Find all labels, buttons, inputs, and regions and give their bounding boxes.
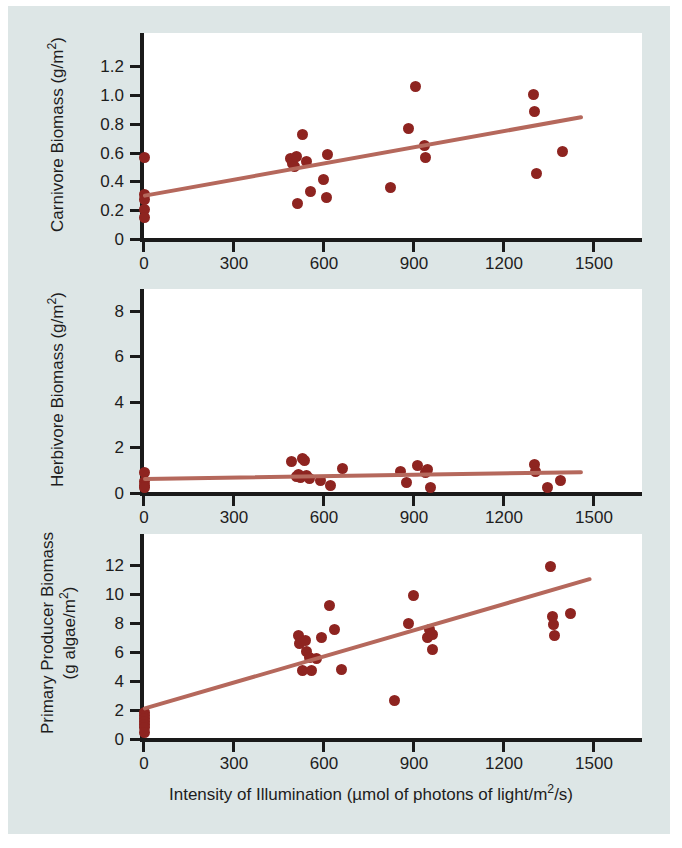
x-tick-label-primary-producer: 300	[204, 755, 264, 772]
y-axis-title-text: Primary Producer Biomass	[38, 532, 57, 734]
x-tick-label-primary-producer: 0	[114, 755, 174, 772]
data-point	[139, 727, 150, 738]
figure-panel-container: 1.2 1.0 0.8 0.6 0.4 0.2 0 0 300 600 900 …	[8, 6, 670, 834]
y-tick-primary-producer	[130, 593, 141, 596]
x-tick-primary-producer	[232, 742, 235, 752]
y-axis-title-primary-producer-line1: Primary Producer Biomass	[38, 520, 58, 746]
y-axis-title-units: (g algae/m	[60, 599, 79, 679]
data-point	[329, 624, 340, 635]
x-axis-title-mid: mol of photons of light/m	[362, 785, 547, 804]
x-axis-line-primary-producer	[140, 738, 642, 742]
y-tick-primary-producer	[130, 622, 141, 625]
x-tick-primary-producer	[592, 742, 595, 752]
data-point	[408, 590, 419, 601]
data-point	[403, 618, 414, 629]
x-axis-title-prefix: Intensity of Illumination (	[169, 785, 352, 804]
data-point	[324, 600, 335, 611]
y-axis-title-end: )	[60, 587, 79, 593]
y-tick-primary-producer	[130, 680, 141, 683]
x-tick-primary-producer	[412, 742, 415, 752]
y-tick-primary-producer	[130, 651, 141, 654]
x-tick-primary-producer	[502, 742, 505, 752]
y-tick-primary-producer	[130, 738, 141, 741]
x-tick-label-primary-producer: 1200	[474, 755, 534, 772]
x-axis-title-suffix: /s)	[554, 785, 573, 804]
data-point	[389, 695, 400, 706]
data-point	[427, 629, 438, 640]
x-axis-title-mu: µ	[352, 785, 362, 804]
y-tick-primary-producer	[130, 564, 141, 567]
data-point	[306, 665, 317, 676]
x-tick-primary-producer	[142, 742, 145, 752]
x-tick-label-primary-producer: 1500	[564, 755, 624, 772]
chart-panel-primary-producer: 12 10 8 6 4 2 0 0 300 600 900 1200 1500 …	[8, 6, 670, 806]
data-point	[565, 608, 576, 619]
y-axis-title-primary-producer-line2: (g algae/m2)	[60, 520, 80, 746]
x-axis-title: Intensity of Illumination (µmol of photo…	[111, 785, 631, 805]
x-tick-primary-producer	[322, 742, 325, 752]
data-point	[548, 619, 559, 630]
x-tick-label-primary-producer: 600	[294, 755, 354, 772]
y-axis-title-sup: 2	[57, 592, 71, 599]
x-tick-label-primary-producer: 900	[384, 755, 444, 772]
